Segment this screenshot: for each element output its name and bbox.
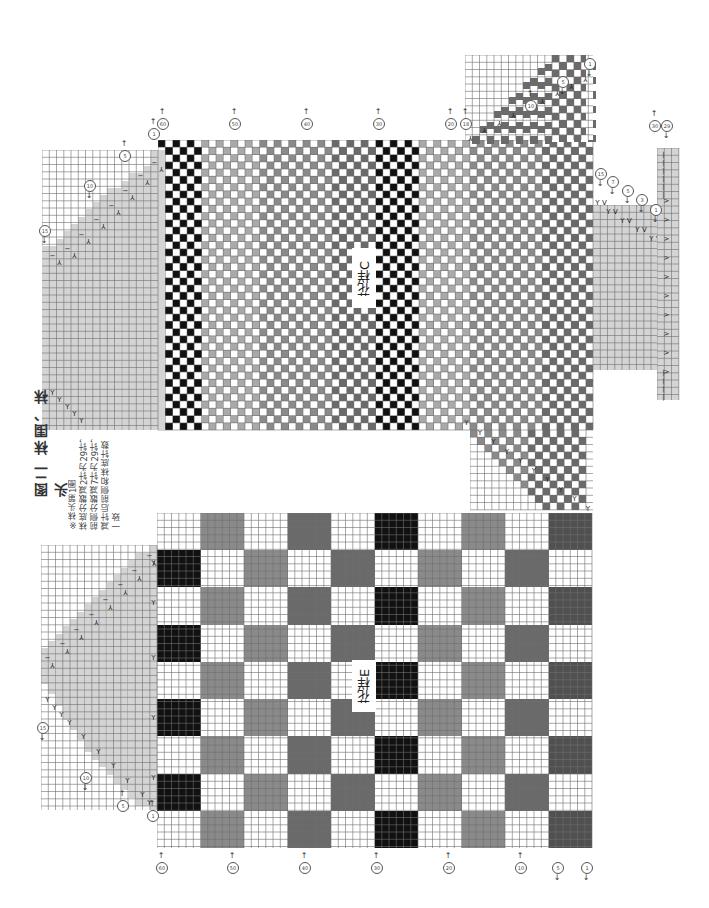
note-line: ※袜头第1圈 — [68, 405, 79, 530]
arrow-down-icon: ↓ — [596, 180, 604, 188]
increase-symbol: V — [626, 218, 633, 225]
decrease-symbol: ⅄ — [93, 620, 100, 627]
increase-symbol: V — [612, 209, 619, 216]
purl-symbol: − — [73, 627, 80, 634]
purl-symbol: − — [59, 641, 66, 648]
decrease-symbol: Y — [150, 775, 157, 782]
row-number-marker: 50 — [229, 118, 241, 130]
row-number-marker: 1 — [148, 128, 160, 140]
row-number-marker: 1 — [147, 810, 159, 822]
arrow-up-icon: ↑ — [158, 108, 166, 116]
decrease-symbol: ⅄ — [136, 576, 143, 583]
decrease-symbol: ⅄ — [496, 121, 503, 128]
toe-column — [158, 150, 165, 430]
slip-symbol: > — [663, 198, 670, 205]
purl-symbol: − — [131, 568, 138, 575]
knit-symbol: | — [660, 184, 667, 191]
arrow-up-icon: ↑ — [157, 852, 165, 860]
row-number-marker: 5 — [119, 150, 131, 162]
decrease-symbol: Y — [648, 236, 655, 243]
row-number-marker: 10 — [515, 862, 527, 874]
purl-symbol: − — [49, 253, 56, 260]
arrow-up-icon: ↑ — [148, 800, 156, 808]
arrow-down-icon: ↓ — [623, 197, 631, 205]
figure-notes: ※袜头第1圈 袜底分散减2针为29针， 前侧分散减7针为29针， 减针后前侧和袜… — [68, 405, 123, 530]
row-number-marker: 20 — [445, 118, 457, 130]
decrease-symbol: Y — [605, 209, 612, 216]
note-line: 袜底分散减2针为29针， — [79, 405, 90, 530]
decrease-symbol: ⅄ — [129, 195, 136, 202]
arrow-up-icon: ↑ — [228, 852, 236, 860]
pattern-c-label: 花样C — [352, 248, 376, 308]
slip-symbol: > — [663, 350, 670, 357]
arrow-up-icon: ↑ — [300, 852, 308, 860]
decrease-symbol: Y — [150, 715, 157, 722]
chart-c-grid — [158, 140, 594, 431]
arrow-up-icon: ↑ — [372, 852, 380, 860]
arrow-down-icon: ↓ — [38, 734, 46, 742]
decrease-symbol: ⅄ — [115, 210, 122, 217]
decrease-symbol: ⅄ — [539, 99, 546, 106]
arrow-up-icon: ↑ — [149, 118, 157, 126]
row-number-marker: 30 — [371, 862, 383, 874]
row-number-marker: 50 — [227, 862, 239, 874]
decrease-symbol: Y — [150, 655, 157, 662]
decrease-symbol: Y — [585, 506, 592, 513]
slip-symbol: > — [663, 312, 670, 319]
decrease-symbol: ⅄ — [122, 590, 129, 597]
note-line: 前侧分散减7针为29针， — [90, 405, 101, 530]
decrease-symbol: Y — [44, 697, 51, 704]
knit-symbol: | — [660, 370, 667, 377]
decrease-symbol: Y — [571, 496, 578, 503]
decrease-symbol: Y — [463, 420, 470, 427]
arrow-down-icon: ↓ — [558, 88, 566, 96]
decrease-symbol: ⅄ — [582, 77, 589, 84]
chart-e-toe-grid — [41, 545, 158, 811]
decrease-symbol: Y — [124, 778, 131, 785]
arrow-down-icon: ↓ — [40, 237, 48, 245]
decrease-symbol: Y — [634, 227, 641, 234]
row-number-marker: 18 — [460, 118, 472, 130]
decrease-symbol: ⅄ — [107, 605, 114, 612]
slip-symbol: > — [663, 255, 670, 262]
figure-title: 图二 袜围、袜头 — [32, 385, 52, 497]
arrow-up-icon: ↑ — [374, 108, 382, 116]
arrow-down-icon: ↓ — [85, 192, 93, 200]
decrease-symbol: Y — [139, 792, 146, 799]
arrow-up-icon: ↑ — [120, 140, 128, 148]
note-line: 一致 — [112, 405, 123, 530]
decrease-symbol: ⅄ — [467, 136, 474, 143]
increase-symbol: V — [601, 200, 608, 207]
slip-symbol: > — [663, 293, 670, 300]
decrease-symbol: Y — [558, 487, 565, 494]
decrease-symbol: ⅄ — [481, 128, 488, 135]
knit-symbol: | — [660, 386, 667, 393]
arrow-up-icon: ↑ — [461, 108, 469, 116]
decrease-symbol: Y — [110, 763, 117, 770]
purl-symbol: − — [93, 217, 100, 224]
decrease-symbol: Y — [150, 600, 157, 607]
decrease-symbol: Y — [80, 734, 87, 741]
decrease-symbol: ⅄ — [64, 649, 71, 656]
purl-symbol: − — [137, 173, 144, 180]
arrow-down-icon: ↓ — [651, 216, 659, 224]
knit-symbol: | — [660, 160, 667, 167]
decrease-symbol: Y — [477, 430, 484, 437]
arrow-down-icon: ↓ — [582, 874, 590, 882]
knit-symbol: | — [660, 152, 667, 159]
slip-symbol: > — [663, 217, 670, 224]
arrow-up-icon: ↑ — [230, 108, 238, 116]
decrease-symbol: Y — [51, 705, 58, 712]
purl-symbol: − — [78, 232, 85, 239]
row-number-marker: 20 — [443, 862, 455, 874]
row-number-marker: 30 — [373, 118, 385, 130]
arrow-up-icon: ↑ — [650, 110, 658, 118]
pattern-e-label: 花样E — [352, 660, 376, 712]
knit-symbol: | — [660, 378, 667, 385]
decrease-symbol: ⅄ — [56, 260, 63, 267]
decrease-symbol: Y — [594, 200, 601, 207]
decrease-symbol: Y — [56, 397, 63, 404]
arrow-up-icon: ↑ — [526, 90, 534, 98]
decrease-symbol: ⅄ — [49, 663, 56, 670]
arrow-down-icon: ↓ — [637, 206, 645, 214]
